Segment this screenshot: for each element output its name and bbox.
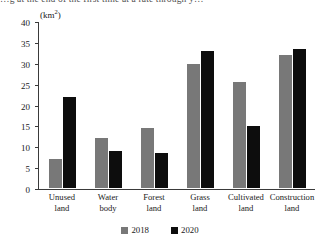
y-axis-tick: 10 [35, 147, 39, 148]
y-axis-tick-label: 35 [21, 39, 30, 48]
bar-2020[interactable] [293, 49, 306, 188]
y-axis-tick: 5 [35, 168, 39, 169]
y-axis-unit-paren: ) [58, 10, 61, 20]
y-axis-tick: 40 [35, 22, 39, 23]
bar-group [223, 22, 269, 188]
bar-group [40, 22, 86, 188]
plot-area: 4035302520151050 [38, 22, 315, 190]
legend-item[interactable]: 2018 [121, 226, 149, 235]
chart-legend: 20182020 [0, 226, 320, 235]
bar-2020[interactable] [201, 51, 214, 188]
legend-swatch-icon [121, 227, 128, 234]
x-axis-labels: Unused landWater bodyForest landGrass la… [39, 192, 315, 213]
y-axis-tick: 20 [35, 106, 39, 107]
bar-groups [40, 22, 315, 188]
y-axis-tick: 15 [35, 126, 39, 127]
bar-2020[interactable] [109, 151, 122, 188]
x-axis-category-label: Forest land [131, 192, 177, 213]
bar-2018[interactable] [141, 128, 154, 188]
y-axis-tick-label: 30 [21, 60, 30, 69]
legend-label: 2020 [181, 226, 199, 235]
bar-group [86, 22, 132, 188]
bar-2018[interactable] [187, 64, 200, 189]
legend-swatch-icon [171, 227, 178, 234]
legend-label: 2018 [131, 226, 149, 235]
legend-item[interactable]: 2020 [171, 226, 199, 235]
y-axis-tick-label: 25 [21, 81, 30, 90]
y-axis-tick-label: 40 [21, 19, 30, 28]
bar-2018[interactable] [49, 159, 62, 188]
y-axis-tick-label: 0 [26, 186, 31, 195]
x-axis-category-label: Construction land [269, 192, 315, 213]
x-axis-category-label: Water body [85, 192, 131, 213]
bar-2018[interactable] [279, 55, 292, 188]
bar-2020[interactable] [155, 153, 168, 188]
y-axis-unit-label: (km2) [40, 8, 61, 20]
x-axis-category-label: Unused land [39, 192, 85, 213]
x-axis-category-label: Grass land [177, 192, 223, 213]
bar-2018[interactable] [95, 138, 108, 188]
bar-group [177, 22, 223, 188]
y-axis-tick-label: 20 [21, 102, 30, 111]
y-axis-tick: 25 [35, 85, 39, 86]
grouped-bar-chart: (km2) 4035302520151050 Unused landWater … [0, 0, 320, 241]
bar-2018[interactable] [233, 82, 246, 188]
y-axis-tick: 35 [35, 43, 39, 44]
y-axis-tick-label: 5 [26, 165, 31, 174]
bar-group [132, 22, 178, 188]
y-axis-tick: 0 [35, 189, 39, 190]
bar-2020[interactable] [247, 126, 260, 188]
y-axis-tick: 30 [35, 64, 39, 65]
bar-2020[interactable] [63, 97, 76, 188]
y-axis-unit-text: (km [40, 10, 55, 20]
x-axis-category-label: Cultivated land [223, 192, 269, 213]
bar-group [269, 22, 315, 188]
y-axis-tick-label: 10 [21, 144, 30, 153]
y-axis-tick-label: 15 [21, 123, 30, 132]
